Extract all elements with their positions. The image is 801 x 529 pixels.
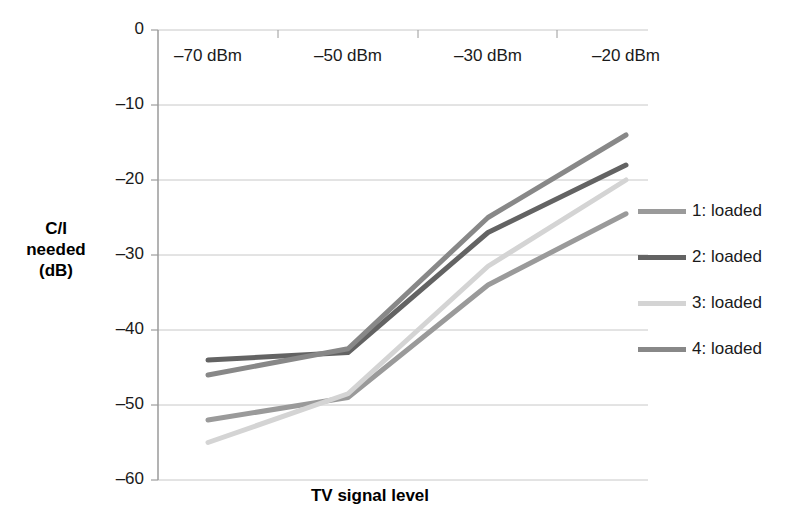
y-axis-tick-label: –20 xyxy=(96,169,144,189)
x-axis-category-label: –70 dBm xyxy=(148,46,268,66)
y-axis-title: C/I needed (dB) xyxy=(2,218,110,281)
x-axis-category-label: –50 dBm xyxy=(288,46,408,66)
y-axis-tick-label: –40 xyxy=(96,319,144,339)
legend-item-label: 2: loaded xyxy=(692,247,762,267)
y-axis-tick-label: –60 xyxy=(96,469,144,489)
y-axis-tick-label: –10 xyxy=(96,94,144,114)
legend-item[interactable]: 2: loaded xyxy=(638,234,798,280)
legend-item-label: 4: loaded xyxy=(692,339,762,359)
legend-line-swatch xyxy=(638,209,686,214)
legend-item-label: 1: loaded xyxy=(692,201,762,221)
legend-line-swatch xyxy=(638,301,686,306)
y-axis-tick-label: –50 xyxy=(96,394,144,414)
legend-line-swatch xyxy=(638,347,686,352)
x-axis-category-label: –20 dBm xyxy=(566,46,686,66)
series-line-3 xyxy=(208,180,626,443)
y-axis-tick-label: –30 xyxy=(96,244,144,264)
legend-item[interactable]: 1: loaded xyxy=(638,188,798,234)
legend-item[interactable]: 3: loaded xyxy=(638,280,798,326)
legend-item[interactable]: 4: loaded xyxy=(638,326,798,372)
series-line-1 xyxy=(208,214,626,420)
legend-line-swatch xyxy=(638,255,686,260)
legend-item-label: 3: loaded xyxy=(692,293,762,313)
y-axis-tick-label: 0 xyxy=(96,19,144,39)
line-chart: C/I needed (dB) TV signal level 0–10–20–… xyxy=(0,0,801,529)
chart-legend: 1: loaded2: loaded3: loaded4: loaded xyxy=(638,188,798,372)
x-axis-category-label: –30 dBm xyxy=(428,46,548,66)
x-axis-title: TV signal level xyxy=(195,485,545,506)
